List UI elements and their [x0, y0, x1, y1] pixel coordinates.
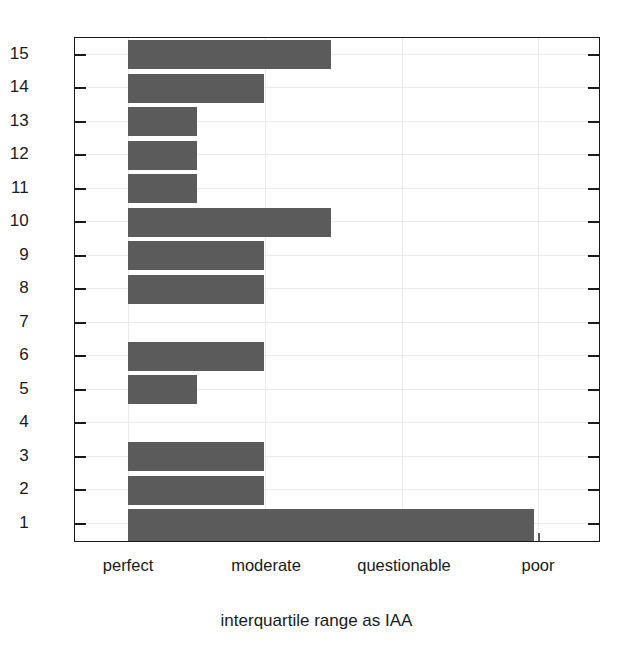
y-axis-tick [588, 154, 599, 156]
y-axis-label-6: 6 [0, 346, 29, 363]
y-axis-tick [588, 221, 599, 223]
y-axis-tick [75, 154, 86, 156]
bar-2 [128, 476, 264, 505]
bar-13 [128, 107, 197, 136]
y-axis-label-1: 1 [0, 514, 29, 531]
y-axis-label-12: 12 [0, 145, 29, 162]
gridline-vertical [538, 38, 539, 541]
bar-15 [128, 40, 331, 69]
y-axis-tick [588, 54, 599, 56]
y-axis-label-13: 13 [0, 112, 29, 129]
y-axis-tick [75, 121, 86, 123]
bar-9 [128, 241, 264, 270]
y-axis-tick [75, 87, 86, 89]
bar-14 [128, 74, 264, 103]
y-axis-tick [75, 422, 86, 424]
y-axis-tick [588, 288, 599, 290]
y-axis-tick [588, 87, 599, 89]
y-axis-label-5: 5 [0, 380, 29, 397]
gridline-vertical [402, 38, 403, 541]
y-axis-tick [75, 489, 86, 491]
y-axis-label-14: 14 [0, 78, 29, 95]
bar-8 [128, 275, 264, 304]
y-axis-tick [75, 54, 86, 56]
y-axis-label-2: 2 [0, 480, 29, 497]
plot-area [74, 37, 600, 542]
gridline-horizontal [75, 422, 599, 423]
y-axis-tick [75, 389, 86, 391]
y-axis-label-15: 15 [0, 45, 29, 62]
y-axis-tick [75, 456, 86, 458]
y-axis-tick [75, 523, 86, 525]
bar-5 [128, 375, 197, 404]
bar-3 [128, 442, 264, 471]
y-axis-tick [588, 456, 599, 458]
bar-6 [128, 342, 264, 371]
bar-chart: 15 14 13 12 11 10 9 8 7 6 5 4 3 2 1 perf… [0, 0, 633, 662]
y-axis-tick [75, 188, 86, 190]
y-axis-tick [588, 255, 599, 257]
x-axis-tick [538, 533, 540, 541]
y-axis-tick [588, 121, 599, 123]
y-axis-tick [588, 422, 599, 424]
y-axis-label-3: 3 [0, 447, 29, 464]
y-axis-label-10: 10 [0, 212, 29, 229]
y-axis-tick [75, 322, 86, 324]
bar-10 [128, 208, 331, 237]
x-axis-label-moderate: moderate [231, 556, 301, 574]
bar-1 [128, 509, 534, 541]
bar-12 [128, 141, 197, 170]
y-axis-tick [588, 322, 599, 324]
x-axis-label-questionable: questionable [357, 556, 451, 574]
y-axis-tick [75, 221, 86, 223]
gridline-vertical [265, 38, 266, 541]
x-axis-label-perfect: perfect [103, 556, 153, 574]
y-axis-label-4: 4 [0, 413, 29, 430]
bar-11 [128, 174, 197, 203]
y-axis-tick [588, 389, 599, 391]
y-axis-tick [75, 255, 86, 257]
y-axis-label-11: 11 [0, 179, 29, 196]
y-axis-tick [588, 355, 599, 357]
gridline-horizontal [75, 322, 599, 323]
y-axis-label-8: 8 [0, 279, 29, 296]
y-axis-label-7: 7 [0, 313, 29, 330]
y-axis-tick [588, 523, 599, 525]
x-axis-label-poor: poor [521, 556, 554, 574]
y-axis-tick [75, 355, 86, 357]
x-axis-title: interquartile range as IAA [0, 611, 633, 631]
y-axis-tick [588, 188, 599, 190]
y-axis-tick [75, 288, 86, 290]
y-axis-tick [588, 489, 599, 491]
y-axis-label-9: 9 [0, 246, 29, 263]
